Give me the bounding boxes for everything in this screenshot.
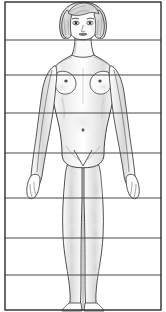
- right-knee-shading: [88, 221, 102, 247]
- right-calf-shading: [89, 252, 101, 284]
- left-knee-shading: [65, 221, 79, 247]
- head-group: [60, 2, 107, 40]
- figure-proportion-chart: Female Figure Proportion Chart standing,…: [0, 0, 166, 312]
- left-pupil: [75, 22, 78, 25]
- illustration-canvas: [0, 0, 166, 312]
- face-shading: [88, 21, 98, 35]
- right-thigh-shading: [88, 164, 104, 216]
- navel: [82, 128, 85, 132]
- left-thigh-shading: [64, 166, 78, 218]
- abdomen-shading: [67, 104, 99, 140]
- left-calf-shading: [66, 252, 78, 284]
